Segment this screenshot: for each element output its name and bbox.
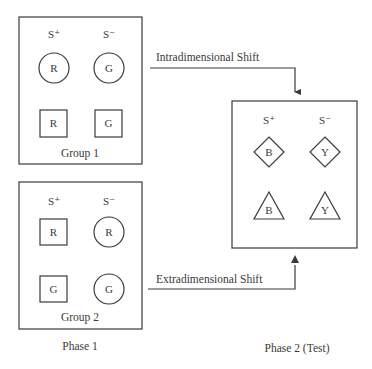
group-2-s-plus-header: S⁺ <box>48 195 60 207</box>
test-box <box>232 101 357 248</box>
group-1-s-plus-header: S⁺ <box>48 28 60 40</box>
group-1-box <box>19 17 142 164</box>
intradimensional-shift-label: Intradimensional Shift <box>156 51 260 63</box>
stimulus-letter: R <box>105 226 113 238</box>
group-2-panel: S⁺ S⁻ R R G G Group 2 <box>19 182 142 329</box>
group-1-label: Group 1 <box>61 147 99 160</box>
extradimensional-shift-arrow: Extradimensional Shift <box>148 255 299 289</box>
test-s-plus-header: S⁺ <box>263 114 275 126</box>
group-1-s-minus-header: S⁻ <box>103 28 115 40</box>
stimulus-letter: B <box>265 146 272 158</box>
phase-1-label: Phase 1 <box>62 340 98 352</box>
stimulus-letter: R <box>50 117 58 129</box>
intradimensional-shift-arrow: Intradimensional Shift <box>150 51 295 92</box>
arrow-up-icon <box>291 255 299 263</box>
phase-2-label: Phase 2 (Test) <box>265 342 330 355</box>
group-1-panel: S⁺ S⁻ R G R G Group 1 <box>19 17 142 164</box>
stimulus-letter: G <box>105 62 113 74</box>
stimulus-letter: Y <box>321 204 329 216</box>
group-2-label: Group 2 <box>61 311 99 324</box>
stimulus-letter: G <box>105 283 113 295</box>
shift-diagram: S⁺ S⁻ R G R G Group 1 S⁺ S⁻ R R G G Grou… <box>0 0 372 369</box>
stimulus-letter: R <box>50 62 58 74</box>
stimulus-letter: R <box>50 226 58 238</box>
test-s-minus-header: S⁻ <box>319 114 331 126</box>
group-2-s-minus-header: S⁻ <box>103 195 115 207</box>
stimulus-letter: Y <box>321 146 329 158</box>
stimulus-letter: G <box>105 117 113 129</box>
extradimensional-shift-label: Extradimensional Shift <box>156 273 263 285</box>
group-2-box <box>19 182 142 329</box>
test-panel: S⁺ S⁻ B Y B Y <box>232 101 357 248</box>
arrow-down-icon <box>150 68 295 92</box>
stimulus-letter: G <box>50 283 58 295</box>
stimulus-letter: B <box>265 204 272 216</box>
